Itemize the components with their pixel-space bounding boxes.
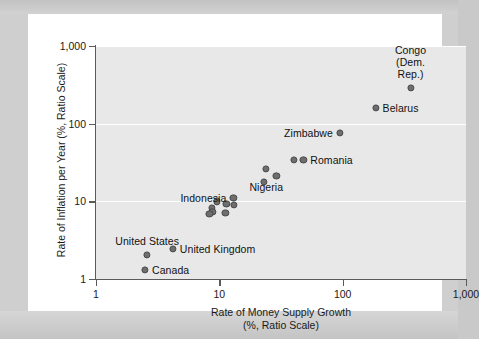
x-tick-label-1: 1 bbox=[93, 288, 99, 300]
x-axis-title: Rate of Money Supply Growth (%, Ratio Sc… bbox=[96, 306, 466, 332]
point-label-canada: Canada bbox=[152, 264, 189, 276]
x-tick-mark-1 bbox=[96, 280, 97, 286]
point-label-line1: Congo bbox=[395, 44, 426, 56]
data-point-15 bbox=[206, 210, 213, 217]
x-tick-mark-100 bbox=[343, 280, 344, 286]
data-point-14 bbox=[222, 209, 229, 216]
data-point-belarus bbox=[372, 104, 379, 111]
gridline-y-100 bbox=[96, 124, 466, 125]
point-label-indonesia: Indonesia bbox=[180, 192, 226, 204]
data-point-romania bbox=[300, 156, 307, 163]
x-tick-label-10: 10 bbox=[213, 288, 225, 300]
point-label-zimbabwe: Zimbabwe bbox=[284, 127, 333, 139]
point-label-nigeria: Nigeria bbox=[249, 181, 283, 193]
data-point-united-states bbox=[144, 251, 151, 258]
page-edge-band-top bbox=[0, 0, 458, 14]
data-point-zimbabwe bbox=[336, 129, 343, 136]
point-label-united-states: United States bbox=[115, 235, 179, 247]
y-tick-mark-100 bbox=[89, 124, 96, 125]
point-label-congo: Congo(Dem. Rep.) bbox=[395, 44, 426, 80]
y-axis-line bbox=[95, 45, 96, 280]
data-point-nigeria bbox=[263, 166, 270, 173]
y-axis-title: Rate of Inflation per Year (%, Ratio Sca… bbox=[55, 45, 67, 275]
point-label-belarus: Belarus bbox=[383, 102, 419, 114]
y-tick-label-100: 100 bbox=[68, 118, 86, 130]
page-edge-band-left bbox=[0, 14, 28, 311]
x-tick-mark-10 bbox=[219, 280, 220, 286]
data-point-congo bbox=[407, 84, 414, 91]
x-tick-label-1,000: 1,000 bbox=[453, 288, 479, 300]
y-tick-mark-10 bbox=[89, 201, 96, 202]
x-axis-title-line1: Rate of Money Supply Growth bbox=[96, 306, 466, 319]
data-point-4 bbox=[290, 156, 297, 163]
data-point-indonesia bbox=[230, 194, 237, 201]
x-axis-title-line2: (%, Ratio Scale) bbox=[96, 319, 466, 332]
data-point-11 bbox=[231, 201, 238, 208]
y-tick-mark-1,000 bbox=[89, 46, 96, 47]
x-axis-line bbox=[95, 279, 467, 280]
x-tick-mark-1,000 bbox=[466, 280, 467, 286]
point-label-romania: Romania bbox=[310, 154, 352, 166]
y-tick-label-10: 10 bbox=[74, 195, 86, 207]
y-tick-label-1: 1 bbox=[80, 273, 86, 285]
data-point-canada bbox=[141, 267, 148, 274]
y-tick-mark-1 bbox=[89, 279, 96, 280]
point-label-line2: (Dem. Rep.) bbox=[395, 56, 426, 80]
gridline-y-10 bbox=[96, 201, 466, 202]
point-label-united-kingdom: United Kingdom bbox=[180, 243, 255, 255]
figure-page-card: 1101001,000 1101001,000 Congo(Dem. Rep.)… bbox=[28, 14, 442, 311]
x-tick-label-100: 100 bbox=[334, 288, 352, 300]
data-point-6 bbox=[273, 173, 280, 180]
